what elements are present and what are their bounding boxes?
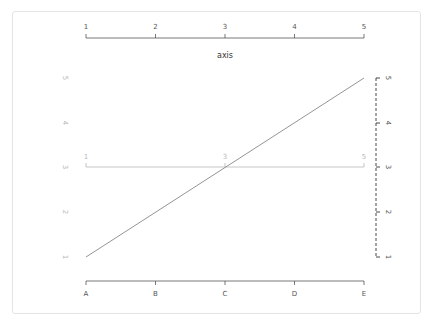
right-tick-label: 4 [384,121,392,126]
left-axis: 5 4 3 2 1 [61,76,69,259]
middle-axis [86,163,364,167]
middle-tick-label: 1 [84,153,88,161]
left-tick-label: 4 [61,121,69,126]
bottom-tick-label: D [292,290,297,298]
bottom-tick-label: A [84,290,89,298]
left-tick-label: 5 [61,76,69,80]
left-tick-label: 2 [61,210,69,214]
axis-title: axis [217,51,233,60]
top-axis [86,34,364,38]
right-tick-label: 3 [384,165,392,169]
middle-tick-label: 3 [223,153,227,161]
bottom-tick-label: C [223,290,228,298]
bottom-axis [86,281,364,285]
top-tick-label: 1 [84,23,88,31]
top-tick-label: 5 [362,23,366,31]
middle-tick-label: 5 [362,153,366,161]
right-axis [376,78,380,257]
left-tick-label: 3 [61,165,69,169]
top-tick-label: 4 [292,23,297,31]
left-tick-label: 1 [61,255,69,259]
right-tick-label: 1 [384,255,392,259]
chart: 1 2 3 4 5 axis 5 4 3 2 1 1 3 5 5 4 3 2 1 [0,0,434,327]
bottom-tick-label: E [362,290,366,298]
top-tick-label: 3 [223,23,227,31]
top-tick-label: 2 [153,23,157,31]
data-line [86,78,364,257]
right-tick-label: 5 [384,76,392,80]
right-tick-label: 2 [384,210,392,214]
bottom-tick-label: B [153,290,158,298]
